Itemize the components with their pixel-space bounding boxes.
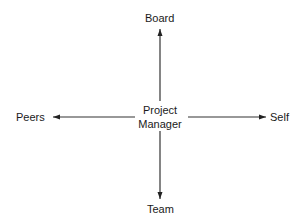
node-team: Team bbox=[147, 203, 174, 216]
node-board: Board bbox=[145, 12, 174, 25]
center-label-line2: Manager bbox=[130, 117, 190, 131]
node-project-manager: Project Manager bbox=[130, 103, 190, 131]
node-self: Self bbox=[270, 111, 289, 124]
node-peers: Peers bbox=[16, 111, 45, 124]
center-label-line1: Project bbox=[130, 103, 190, 117]
